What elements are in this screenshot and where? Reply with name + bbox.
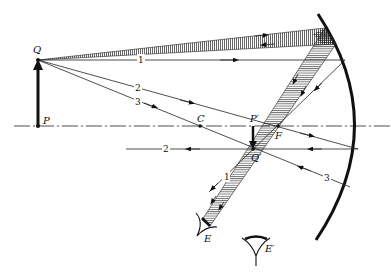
arrow-icon [212,183,218,189]
concave-mirror-diagram: Q P C F P′ Q′ E E′ 1 2 3 2 1 3 [0,0,391,274]
point-p [36,124,40,128]
point-q-prime [251,147,255,151]
ray-2-number: 2 [135,83,141,93]
point-q [36,58,40,62]
point-f [276,124,280,128]
arrow-icon [316,83,322,89]
arrow-icon [180,100,192,103]
label-p: P [42,115,50,126]
ray-1-reflected-number: 1 [224,172,230,182]
label-p-prime: P′ [249,113,260,124]
label-e-prime: E′ [264,243,275,254]
arrow-icon [300,167,311,171]
arrow-icon [144,103,155,107]
point-c [198,124,202,128]
arrow-icon [300,133,312,136]
label-f: F [274,130,283,141]
label-q: Q [33,44,41,55]
label-e: E [203,233,212,244]
label-c: C [197,113,205,124]
ray-3-reflected-number: 3 [324,173,330,183]
ray-1-number: 1 [138,55,144,65]
ray-2-reflected-number: 2 [163,144,169,154]
reflected-beam [202,28,336,226]
ray-3-number: 3 [135,97,141,107]
label-q-prime: Q′ [251,152,262,163]
incident-beam [38,28,336,60]
